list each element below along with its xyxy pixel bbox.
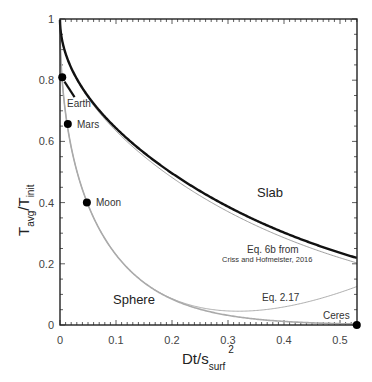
x-tick-label: 0.4 — [276, 334, 291, 346]
curve-sphere — [60, 21, 357, 324]
x-tick-label: 0 — [57, 334, 63, 346]
data-point-mars — [64, 120, 72, 128]
label-slab: Slab — [257, 185, 283, 200]
curves — [60, 20, 357, 324]
plot-frame — [60, 19, 357, 325]
curve-slab — [60, 20, 357, 258]
y-tick-label: 0.2 — [39, 258, 54, 270]
x-tick-label: 0.2 — [164, 334, 179, 346]
x-axis-title: Dt/ssurf2 — [182, 344, 234, 372]
y-axis-title: Tavg/Tinit — [15, 184, 36, 236]
y-tick-label: 1 — [48, 13, 54, 25]
label-ceres: Ceres — [323, 310, 350, 321]
axis-ticks — [60, 19, 357, 325]
curve-eq217 — [60, 20, 357, 311]
y-tick-label: 0.4 — [39, 197, 54, 209]
x-tick-labels: 00.10.20.30.40.5 — [57, 334, 348, 346]
label-earth: Earth — [67, 98, 91, 109]
label-eq6b-cite: Criss and Hofmeister, 2016 — [222, 255, 312, 264]
label-eq6b: Eq. 6b from — [247, 244, 299, 255]
x-tick-label: 0.1 — [108, 334, 123, 346]
y-tick-labels: 00.20.40.60.81 — [39, 13, 54, 331]
x-tick-label: 0.5 — [332, 334, 347, 346]
label-sphere: Sphere — [113, 292, 155, 307]
data-point-ceres — [353, 321, 361, 329]
y-tick-label: 0 — [48, 319, 54, 331]
earth-leader-line — [64, 82, 74, 97]
curve-eq6b — [60, 20, 357, 263]
data-point-earth — [58, 73, 66, 81]
label-mars: Mars — [77, 119, 99, 130]
data-point-moon — [83, 199, 91, 207]
label-moon: Moon — [96, 197, 121, 208]
y-tick-label: 0.6 — [39, 135, 54, 147]
y-tick-label: 0.8 — [39, 74, 54, 86]
chart: 00.10.20.30.40.5 00.20.40.60.81 Slab Sph… — [0, 0, 372, 382]
label-eq217: Eq. 2.17 — [262, 292, 300, 303]
